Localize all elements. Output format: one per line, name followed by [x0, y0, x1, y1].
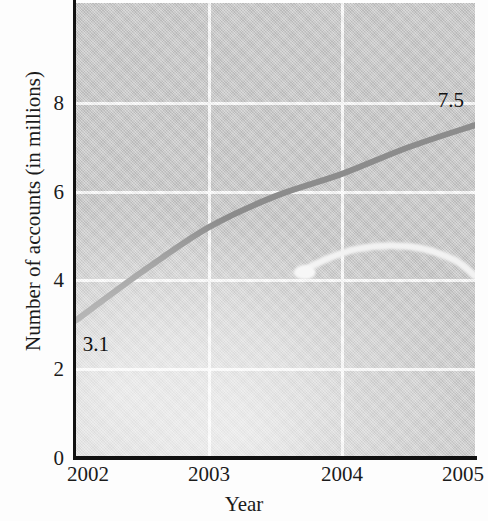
end-value-label: 7.5	[438, 90, 464, 111]
start-value-label: 3.1	[83, 334, 109, 355]
y-axis-title: Number of accounts (in millions)	[22, 46, 44, 376]
plot-area: 3.1 7.5	[76, 3, 475, 458]
x-tick-2004: 2004	[297, 464, 387, 485]
highlight-line-path	[305, 246, 475, 276]
chart-figure: 3.1 7.5 86420 2002200320042005 Number of…	[0, 0, 488, 521]
x-axis-title: Year	[0, 492, 488, 516]
x-tick-2003: 2003	[164, 464, 254, 485]
y-axis-line	[73, 0, 76, 460]
x-axis-line	[73, 456, 477, 460]
x-tick-2002: 2002	[43, 464, 133, 485]
series-svg	[76, 3, 475, 458]
highlight-start-blob	[294, 265, 316, 279]
x-tick-2005: 2005	[418, 464, 488, 485]
primary-line-path	[76, 125, 475, 320]
